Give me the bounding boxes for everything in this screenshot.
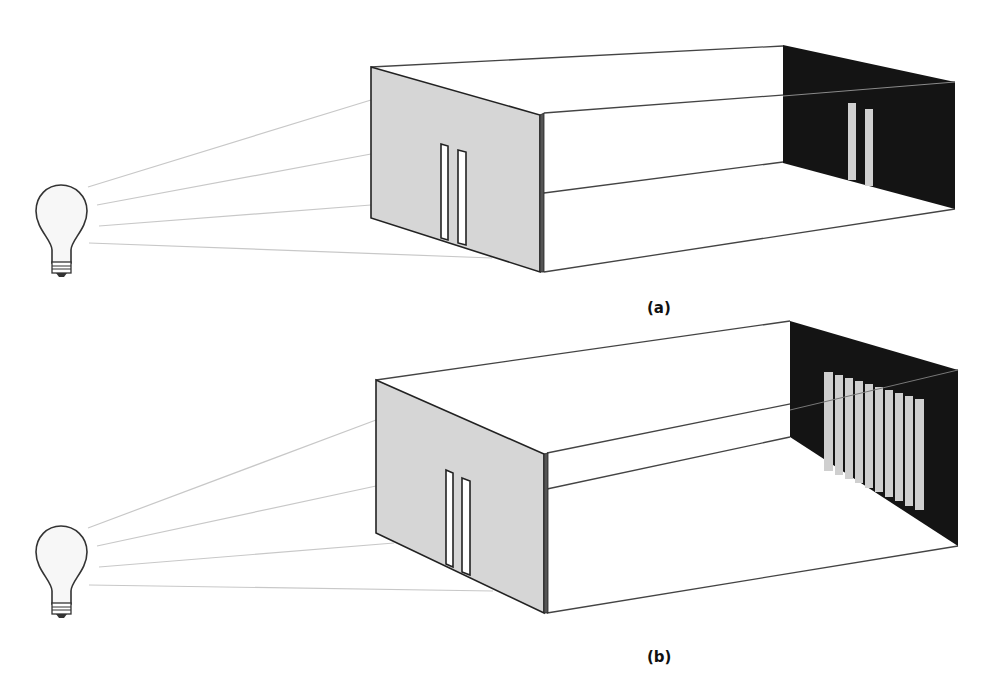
- bright-band: [865, 384, 873, 488]
- panel-label-b: (b): [647, 648, 671, 666]
- bright-band: [875, 387, 883, 492]
- bright-band: [885, 390, 893, 497]
- bright-band: [835, 375, 843, 475]
- bright-band: [905, 396, 913, 506]
- bright-band: [915, 399, 924, 510]
- bright-band: [895, 393, 903, 501]
- panel-a: [36, 45, 955, 277]
- light-bulb-icon: [36, 185, 87, 277]
- bright-band: [848, 103, 856, 180]
- bright-band: [845, 378, 853, 479]
- bright-band: [855, 381, 863, 483]
- slit-barrier-a: [371, 67, 544, 272]
- panel-b: [36, 321, 958, 618]
- double-slit-diagram: [0, 0, 996, 699]
- bright-band: [865, 109, 873, 186]
- slit-barrier-b: [376, 380, 548, 613]
- back-screen-a: [783, 45, 955, 209]
- light-bulb-icon: [36, 526, 87, 618]
- back-screen-b: [790, 321, 958, 546]
- panel-label-a: (a): [647, 299, 671, 317]
- bright-band: [824, 372, 833, 471]
